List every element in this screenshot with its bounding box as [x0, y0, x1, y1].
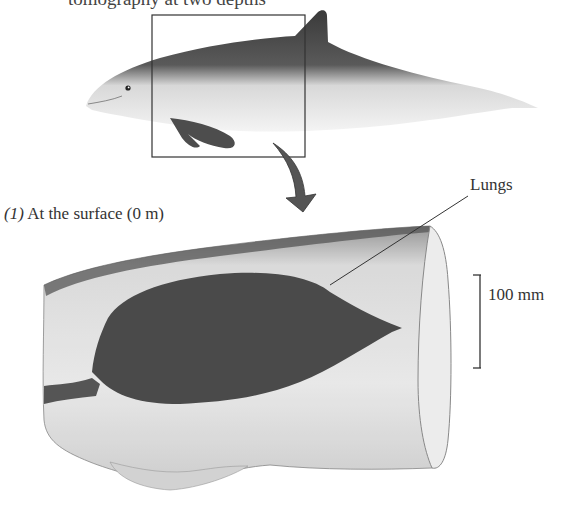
scale-bar — [473, 275, 481, 368]
panel-title: At the surface (0 m) — [27, 204, 164, 223]
porpoise-illustration — [86, 10, 538, 148]
curved-arrow-icon — [273, 143, 316, 212]
lungs-label: Lungs — [470, 175, 513, 195]
scale-bar-label: 100 mm — [488, 285, 544, 305]
panel-label: (1) At the surface (0 m) — [4, 204, 164, 224]
porpoise-figure — [0, 0, 569, 509]
panel-number: (1) — [4, 204, 24, 223]
